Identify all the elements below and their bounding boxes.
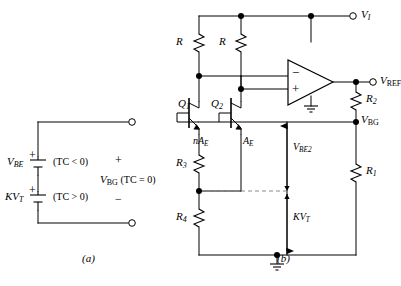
- opamp-inverting-label: −: [292, 66, 299, 79]
- vi-label: VI: [361, 9, 370, 20]
- resistor-r3-label: R3: [176, 157, 187, 168]
- ground-symbol-opamp: [304, 106, 318, 112]
- vbe-tc-note: (TC < 0): [53, 157, 88, 167]
- transistor-q2-area-label: AE: [243, 136, 254, 146]
- kvt-arrow-tail: [284, 194, 289, 199]
- panel-a-output-plus: +: [115, 154, 122, 166]
- kvt-plus-sign: +: [29, 184, 36, 196]
- resistor-glyphs: [194, 34, 361, 227]
- resistor-r-left-label: R: [176, 36, 183, 47]
- panel-a-bottom-terminal: [129, 220, 136, 227]
- vbe2-arrow-tail: [284, 186, 289, 191]
- opamp-noninverting-label: +: [292, 82, 299, 95]
- vbg-label: VBG: [361, 114, 379, 125]
- panel-a-output-label: VBG (TC = 0): [100, 174, 156, 185]
- junction-dots: [196, 13, 359, 258]
- panel-a-output-minus: −: [115, 193, 122, 205]
- vref-terminal-circle: [370, 79, 377, 86]
- transistor-q2-label: Q2: [211, 98, 223, 109]
- kvt-source-label: KVT: [5, 191, 23, 202]
- resistor-r2-label: R2: [366, 93, 377, 104]
- vbe-source-label: VBE: [7, 156, 23, 167]
- panel-a-caption: (a): [82, 253, 95, 264]
- panel-b-caption: (b): [277, 253, 290, 264]
- panel-a-top-terminal: [129, 119, 136, 126]
- vi-terminal-circle: [350, 13, 357, 20]
- resistor-r1-label: R1: [366, 165, 377, 176]
- resistor-r-right-label: R: [219, 36, 226, 47]
- vbe2-arrow-label: VBE2: [293, 142, 311, 152]
- vref-label: VREF: [380, 75, 401, 86]
- transistor-q1-label: Q1: [178, 98, 190, 109]
- kvt-tc-note: (TC > 0): [53, 192, 88, 202]
- kvt-arrow-label: KVT: [293, 212, 310, 222]
- panel-b-wires: [199, 16, 370, 255]
- resistor-r4-label: R4: [176, 211, 187, 222]
- transistor-q1-area-label: nAE: [193, 136, 209, 146]
- vbe-plus-sign: +: [29, 149, 36, 161]
- panel-a-wires: [38, 122, 128, 223]
